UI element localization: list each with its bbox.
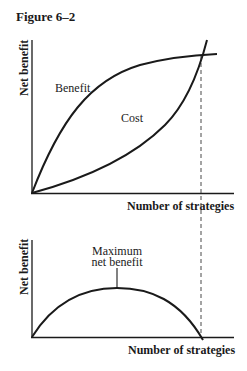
cost-label: Cost xyxy=(121,111,143,126)
chart-canvas xyxy=(0,0,247,371)
benefit-label: Benefit xyxy=(55,81,90,96)
net-benefit-curve xyxy=(32,288,203,340)
top-y-axis-label: Net benefit xyxy=(17,40,32,96)
max-net-benefit-annotation: Maximum net benefit xyxy=(77,246,157,268)
annotation-line-2: net benefit xyxy=(77,257,157,268)
cost-curve xyxy=(32,40,207,193)
top-x-axis-label: Number of strategies xyxy=(127,199,234,214)
bottom-y-axis-label: Net benefit xyxy=(17,239,32,295)
bottom-x-axis-label: Number of strategies xyxy=(128,343,235,358)
